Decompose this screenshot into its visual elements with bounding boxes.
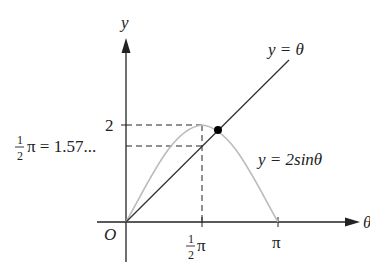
y-annotation-half-pi: 1 2 π = 1.57...	[15, 133, 96, 163]
x-axis-arrow-icon	[345, 218, 360, 227]
svg-text:π: π	[197, 236, 206, 255]
dashed-guides	[126, 125, 202, 222]
svg-text:π = 1.57...: π = 1.57...	[27, 137, 96, 156]
x-tick-half-pi-label: 1 2 π	[186, 232, 206, 262]
y-axis-arrow-icon	[122, 38, 131, 53]
label-y-equals-2sin-theta: y = 2sinθ	[256, 150, 322, 169]
intersection-point	[214, 126, 222, 134]
y-tick-2-label: 2	[105, 116, 114, 135]
x-axis-label: θ	[363, 213, 370, 232]
svg-text:2: 2	[188, 248, 194, 262]
svg-text:2: 2	[17, 149, 23, 163]
label-y-equals-theta: y = θ	[266, 40, 304, 59]
y-axis-label: y	[119, 13, 129, 32]
diagram-canvas: y O θ 2 1 2 π = 1.57... 1 2 π π y = θ y …	[0, 0, 370, 274]
svg-text:1: 1	[17, 133, 23, 147]
x-tick-pi-label: π	[272, 233, 281, 252]
origin-label: O	[104, 225, 116, 244]
svg-text:1: 1	[188, 232, 194, 246]
